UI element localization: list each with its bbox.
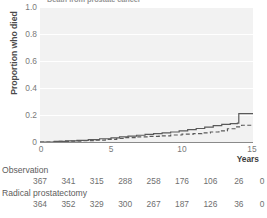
x-axis-title: Years <box>237 154 259 164</box>
risk-value-cell: 364 <box>33 199 47 209</box>
risk-value-cell: 267 <box>147 199 161 209</box>
series-line-radical-prostatectomy <box>40 125 253 142</box>
x-tick-label: 10 <box>177 144 186 154</box>
risk-value-cell: 341 <box>61 176 75 186</box>
y-tick-label: 0.4 <box>3 83 37 93</box>
risk-row-label: Observation <box>0 165 267 176</box>
y-tick-label: 0 <box>3 137 37 147</box>
risk-value-cell: 126 <box>203 199 217 209</box>
risk-value-cell: 315 <box>90 176 104 186</box>
risk-row-label: Radical prostatectomy <box>0 188 267 199</box>
risk-value-cell: 26 <box>234 176 243 186</box>
x-axis-line <box>40 142 253 143</box>
y-tick-label: 0.2 <box>3 110 37 120</box>
series-line-observation <box>40 114 253 142</box>
risk-value-cell: 36 <box>234 199 243 209</box>
risk-value-cell: 288 <box>118 176 132 186</box>
x-tick-label: 15 <box>247 144 256 154</box>
risk-row-values: 364352329300267187126360 <box>0 199 267 211</box>
risk-value-cell: 187 <box>175 199 189 209</box>
chart-title: Death from prostate cancer <box>47 0 141 4</box>
risk-value-cell: 367 <box>33 176 47 186</box>
risk-row-values: 367341315288258176106260 <box>0 176 267 188</box>
x-tick-label: 0 <box>39 144 44 154</box>
y-tick-label: 0.6 <box>3 56 37 66</box>
plot-area <box>40 7 253 142</box>
y-tick-label: 1.0 <box>3 2 37 12</box>
x-tick-label: 5 <box>109 144 114 154</box>
y-axis-tick-labels: 00.20.40.60.81.0 <box>0 0 37 150</box>
risk-value-cell: 300 <box>118 199 132 209</box>
risk-value-cell: 0 <box>260 176 265 186</box>
risk-value-cell: 176 <box>175 176 189 186</box>
chart-figure: Death from prostate cancer Proportion wh… <box>0 0 267 218</box>
risk-value-cell: 0 <box>260 199 265 209</box>
plot-canvas <box>40 7 253 142</box>
risk-value-cell: 106 <box>203 176 217 186</box>
risk-value-cell: 352 <box>61 199 75 209</box>
risk-value-cell: 329 <box>90 199 104 209</box>
y-tick-label: 0.8 <box>3 29 37 39</box>
risk-value-cell: 258 <box>147 176 161 186</box>
numbers-at-risk-table: Observation367341315288258176106260Radic… <box>0 165 267 211</box>
